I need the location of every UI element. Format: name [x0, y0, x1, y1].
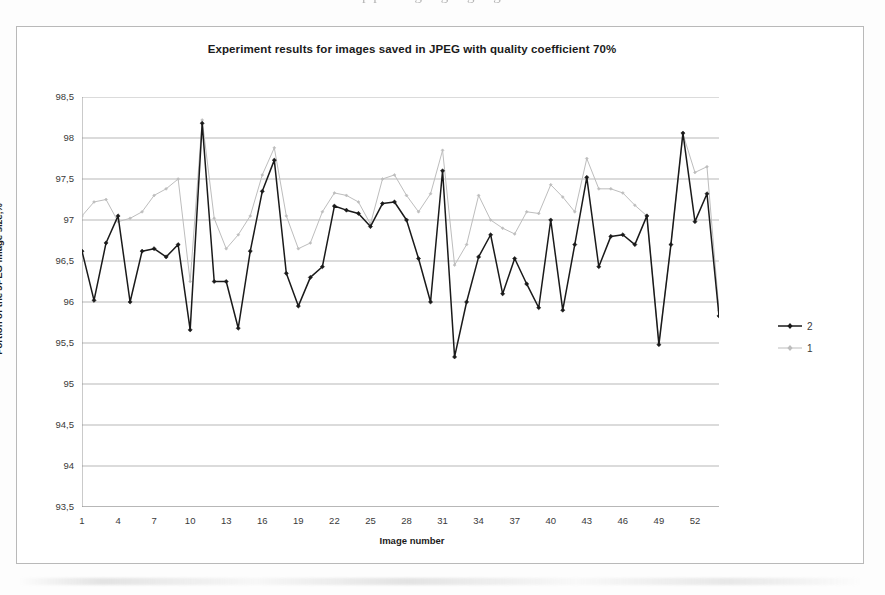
- series-marker-2: [681, 131, 685, 135]
- series-marker-2: [212, 279, 216, 283]
- series-marker-1: [537, 212, 540, 215]
- series-marker-2: [465, 300, 469, 304]
- series-marker-1: [381, 178, 384, 181]
- x-axis-tick-label: 1: [70, 515, 94, 526]
- x-axis-tick-label: 7: [142, 515, 166, 526]
- y-axis-tick-label: 95,5: [30, 337, 74, 348]
- y-axis-tick-label: 98,5: [30, 91, 74, 102]
- series-marker-1: [273, 146, 276, 149]
- series-marker-2: [428, 300, 432, 304]
- series-marker-2: [224, 279, 228, 283]
- legend-label: 2: [807, 321, 813, 332]
- series-marker-2: [669, 243, 673, 247]
- series-marker-2: [200, 121, 204, 125]
- y-axis-tick-label: 97: [30, 214, 74, 225]
- series-line-2: [82, 123, 719, 357]
- series-marker-2: [296, 304, 300, 308]
- legend-marker-icon: [777, 342, 803, 354]
- series-marker-1: [189, 280, 192, 283]
- x-axis-tick-label: 25: [358, 515, 382, 526]
- legend-label: 1: [807, 343, 813, 354]
- x-axis-tick-label: 13: [214, 515, 238, 526]
- x-axis-tick-label: 4: [106, 515, 130, 526]
- x-axis-tick-label: 37: [503, 515, 527, 526]
- series-marker-2: [140, 249, 144, 253]
- y-axis-title: Portion of the JPEG image size,%: [0, 179, 4, 379]
- series-marker-2: [705, 192, 709, 196]
- series-marker-2: [452, 355, 456, 359]
- x-axis-tick-label: 22: [322, 515, 346, 526]
- x-axis-tick-label: 43: [575, 515, 599, 526]
- y-axis-tick-label: 96,5: [30, 255, 74, 266]
- series-marker-2: [284, 271, 288, 275]
- series-marker-2: [573, 243, 577, 247]
- series-marker-1: [213, 217, 216, 220]
- y-axis-tick-label: 98: [30, 132, 74, 143]
- x-axis-title: Image number: [17, 535, 807, 546]
- x-axis-tick-label: 10: [178, 515, 202, 526]
- y-axis-tick-label: 93,5: [30, 501, 74, 512]
- series-marker-1: [597, 187, 600, 190]
- x-axis-tick-label: 46: [611, 515, 635, 526]
- series-line-1: [82, 120, 719, 343]
- y-axis-tick-label: 97,5: [30, 173, 74, 184]
- series-marker-2: [236, 326, 240, 330]
- series-marker-2: [501, 292, 505, 296]
- series-marker-2: [416, 256, 420, 260]
- y-axis-tick-label: 96: [30, 296, 74, 307]
- x-axis-tick-label: 52: [683, 515, 707, 526]
- chart-legend: 21: [777, 315, 847, 359]
- x-axis-tick-label: 28: [395, 515, 419, 526]
- scan-top-clipped-text: the p.p… …g …g …g …g …e …: [0, 0, 885, 4]
- series-marker-2: [717, 314, 719, 318]
- chart-title: Experiment results for images saved in J…: [17, 43, 807, 55]
- y-axis-tick-label: 94,5: [30, 419, 74, 430]
- legend-marker-icon: [777, 320, 803, 332]
- chart-frame: Experiment results for images saved in J…: [16, 26, 864, 564]
- series-marker-2: [128, 300, 132, 304]
- x-axis-tick-label: 16: [250, 515, 274, 526]
- series-marker-2: [332, 204, 336, 208]
- series-marker-2: [188, 328, 192, 332]
- series-marker-1: [585, 157, 588, 160]
- series-marker-2: [597, 265, 601, 269]
- series-marker-2: [609, 234, 613, 238]
- series-marker-1: [261, 173, 264, 176]
- x-axis-tick-label: 31: [431, 515, 455, 526]
- series-marker-2: [344, 208, 348, 212]
- y-axis-tick-label: 94: [30, 460, 74, 471]
- plot-area: [82, 97, 719, 507]
- series-marker-2: [440, 169, 444, 173]
- x-axis-tick-label: 19: [286, 515, 310, 526]
- legend-item-1[interactable]: 1: [777, 337, 847, 359]
- series-marker-2: [260, 189, 264, 193]
- series-marker-2: [561, 308, 565, 312]
- series-marker-2: [248, 249, 252, 253]
- series-marker-1: [285, 214, 288, 217]
- series-marker-1: [609, 187, 612, 190]
- scanned-page: the p.p… …g …g …g …g …e … Experiment res…: [0, 0, 885, 595]
- x-axis-tick-label: 34: [467, 515, 491, 526]
- x-axis-tick-label: 40: [539, 515, 563, 526]
- legend-item-2[interactable]: 2: [777, 315, 847, 337]
- x-axis-tick-label: 49: [647, 515, 671, 526]
- line-chart-plot: [82, 97, 719, 507]
- y-axis-tick-label: 95: [30, 378, 74, 389]
- series-marker-2: [549, 218, 553, 222]
- scan-bottom-smudge: [18, 578, 863, 585]
- series-marker-1: [441, 149, 444, 152]
